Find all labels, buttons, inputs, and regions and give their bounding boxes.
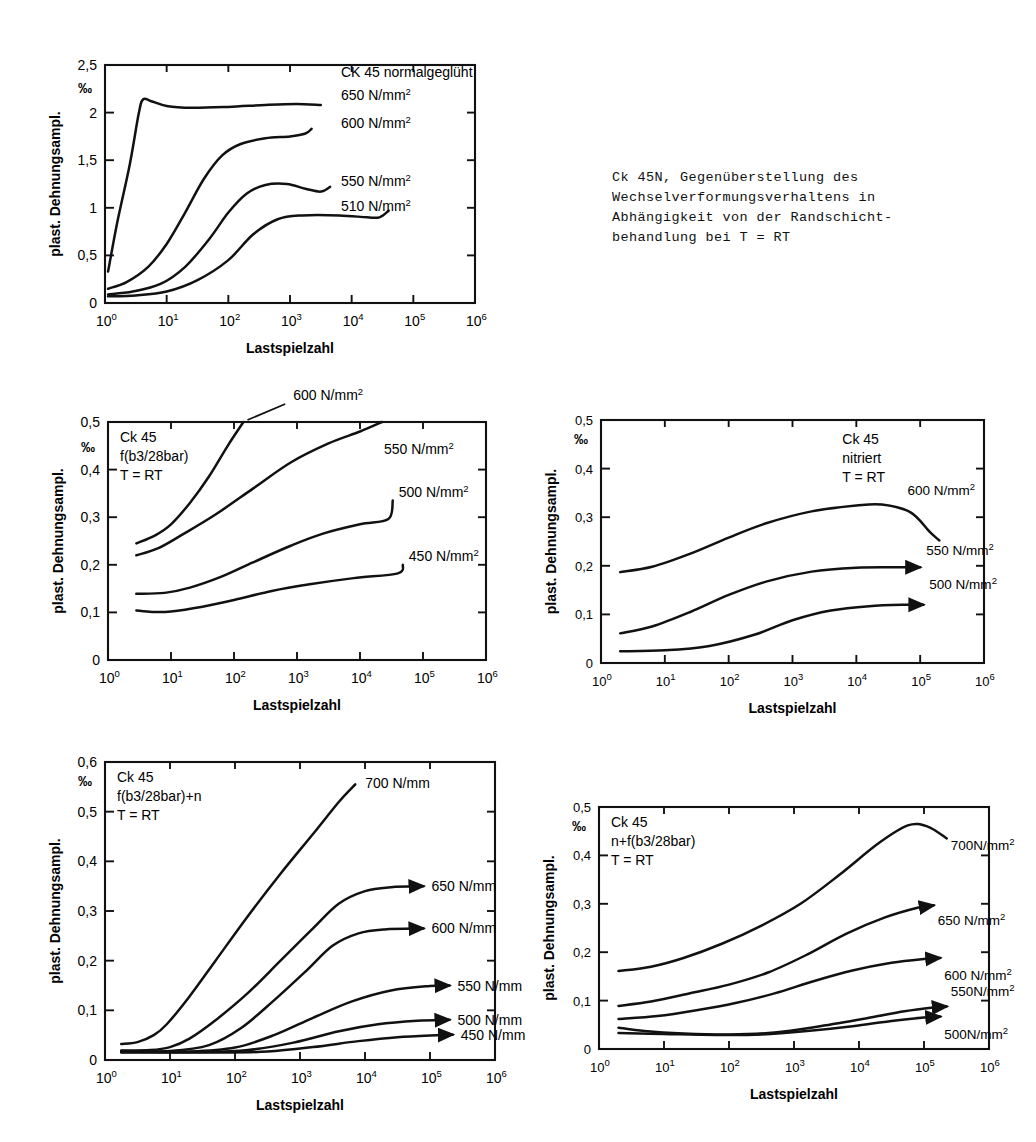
x-tick-label: 104	[850, 1057, 870, 1075]
y-tick-label: 0,2	[573, 945, 591, 960]
series-label: 600 N/mm2	[293, 386, 363, 403]
y-tick-label: 0,4	[573, 848, 591, 863]
series-label: 600 N/mm2	[944, 966, 1012, 983]
x-tick-label: 100	[99, 668, 120, 686]
x-tick-label: 105	[911, 671, 931, 689]
x-tick-label: 103	[784, 671, 804, 689]
y-axis-title: plast. Dehnungsampl.	[50, 468, 66, 613]
series-label: 700 N/mm	[365, 775, 430, 791]
series-curve	[619, 905, 934, 1006]
y-tick-label: 0,5	[78, 804, 98, 820]
y-tick-label: 0,2	[575, 559, 593, 574]
x-tick-label: 100	[590, 1057, 610, 1075]
y-tick-label: 1,5	[78, 152, 98, 168]
x-tick-label: 103	[288, 668, 309, 686]
x-axis-title: Lastspielzahl	[749, 700, 837, 716]
series-label: 450 N/mm	[461, 1027, 526, 1043]
y-tick-label: 0	[586, 656, 593, 671]
y-axis-title: plast. Dehnungsampl.	[543, 469, 559, 614]
series-curve	[136, 565, 403, 612]
chart-n-plus-f-b3-28bar-svg: 10010110210310410510600,10,20,30,40,5‰La…	[535, 785, 1005, 1115]
y-tick-label: 0,3	[575, 510, 593, 525]
x-tick-label: 103	[291, 1068, 312, 1086]
series-curve	[108, 129, 311, 289]
x-tick-label: 100	[96, 311, 117, 329]
x-axis-title: Lastspielzahl	[253, 697, 341, 713]
y-tick-label: 0,4	[78, 853, 98, 869]
x-tick-label: 102	[219, 311, 240, 329]
x-tick-label: 100	[96, 1068, 117, 1086]
series-label: 550 N/mm	[458, 978, 523, 994]
series-curve	[136, 501, 392, 594]
series-curve	[108, 211, 389, 297]
x-tick-label: 106	[980, 1057, 1000, 1075]
y-unit-permille: ‰	[574, 431, 588, 447]
y-tick-label: 0,6	[78, 754, 98, 770]
chart-f-b3-28bar: 10010110210310410510600,10,20,30,40,5‰La…	[40, 370, 520, 710]
x-tick-label: 106	[486, 1068, 507, 1086]
plot-annotation: T = RT	[842, 469, 885, 485]
plot-annotation: T = RT	[611, 852, 654, 868]
y-tick-label: 0,5	[78, 247, 98, 263]
x-tick-label: 101	[655, 1057, 675, 1075]
series-curve	[121, 784, 355, 1044]
y-unit-permille: ‰	[81, 439, 95, 455]
series-label: 450 N/mm2	[409, 547, 479, 564]
series-label: 500 N/mm2	[929, 575, 997, 592]
x-tick-label: 105	[915, 1057, 935, 1075]
series-label: 550 N/mm2	[384, 440, 454, 457]
y-tick-label: 0,4	[575, 462, 593, 477]
chart-nitriert: 10010110210310410510600,10,20,30,40,5‰La…	[535, 370, 1005, 700]
series-curve	[108, 184, 330, 295]
x-tick-label: 103	[281, 311, 302, 329]
series-label: 550 N/mm2	[926, 541, 994, 558]
x-tick-label: 101	[162, 668, 183, 686]
x-tick-label: 105	[404, 311, 425, 329]
series-label: 650 N/mm2	[938, 911, 1006, 928]
series-label: 550 N/mm2	[341, 172, 411, 189]
plot-annotation: n+f(b3/28bar)	[611, 833, 695, 849]
plot-annotation: f(b3/28bar)	[120, 448, 188, 464]
y-axis-title: plast. Dehnungsampl.	[47, 838, 63, 983]
y-tick-label: 0,2	[81, 557, 101, 573]
x-tick-label: 106	[477, 668, 498, 686]
chart-normalized-svg: 10010110210310410510600,511,522,5‰Lastsp…	[40, 30, 510, 360]
x-tick-label: 101	[158, 311, 179, 329]
chart-f-b3-28bar-plus-n: 10010110210310410510600,10,20,30,40,50,6…	[40, 740, 520, 1100]
figure-caption: Ck 45N, Gegenüberstellung des Wechselver…	[612, 168, 992, 248]
y-tick-label: 0	[89, 1052, 97, 1068]
x-axis-title: Lastspielzahl	[246, 340, 334, 356]
x-tick-label: 102	[720, 671, 740, 689]
x-tick-label: 101	[161, 1068, 182, 1086]
series-label: 500 N/mm	[458, 1012, 523, 1028]
series-label: 700N/mm2	[951, 836, 1015, 853]
y-tick-label: 0,3	[81, 509, 101, 525]
x-tick-label: 100	[592, 671, 612, 689]
y-tick-label: 0	[89, 295, 97, 311]
series-curve	[620, 605, 923, 652]
x-tick-label: 105	[421, 1068, 442, 1086]
chart-nitriert-svg: 10010110210310410510600,10,20,30,40,5‰La…	[535, 370, 1005, 700]
y-axis-title: plast. Dehnungsampl.	[541, 855, 557, 1000]
x-tick-label: 106	[975, 671, 995, 689]
y-tick-label: 0,4	[81, 462, 101, 478]
y-tick-label: 0,3	[573, 897, 591, 912]
x-axis-title: Lastspielzahl	[256, 1097, 344, 1113]
label-leader-line	[247, 404, 285, 420]
y-axis-title: plast. Dehnungsampl.	[47, 111, 63, 256]
series-label: 600 N/mm2	[907, 481, 975, 498]
plot-annotation: T = RT	[120, 467, 163, 483]
chart-f-b3-28bar-svg: 10010110210310410510600,10,20,30,40,5‰La…	[40, 370, 520, 710]
series-curve	[121, 928, 423, 1051]
y-tick-label: 0,1	[81, 604, 101, 620]
chart-f-b3-28bar-plus-n-svg: 10010110210310410510600,10,20,30,40,50,6…	[40, 740, 520, 1100]
y-tick-label: 1	[89, 200, 97, 216]
plot-annotation: f(b3/28bar)+n	[117, 788, 201, 804]
plot-annotation: Ck 45	[120, 429, 157, 445]
x-tick-label: 104	[847, 671, 867, 689]
plot-annotation: Ck 45	[117, 769, 154, 785]
x-axis-title: Lastspielzahl	[750, 1086, 838, 1102]
x-tick-label: 104	[343, 311, 364, 329]
x-tick-label: 102	[720, 1057, 740, 1075]
plot-annotation: CK 45 normalgeglüht	[341, 64, 473, 80]
